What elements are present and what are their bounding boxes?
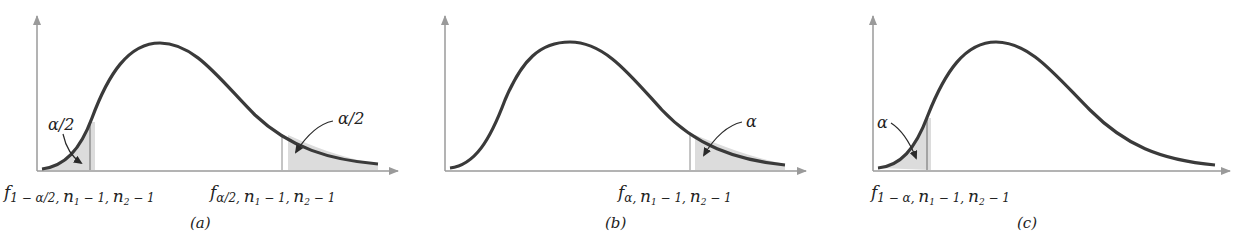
f-distribution-figure: α/2 α/2 f1 − α/2, n1 − 1, n2 − 1 fα/2, n… xyxy=(0,0,1235,242)
lower-critical-label: f1 − α, n1 − 1, n2 − 1 xyxy=(869,182,1010,207)
lower-critical-label: f1 − α/2, n1 − 1, n2 − 1 xyxy=(2,182,155,207)
f-density-curve xyxy=(450,42,785,168)
upper-critical-label: fα/2, n1 − 1, n2 − 1 xyxy=(208,182,335,207)
right-rejection-region xyxy=(288,135,378,170)
panel-a: α/2 α/2 f1 − α/2, n1 − 1, n2 − 1 fα/2, n… xyxy=(2,16,398,232)
left-tail-label: α/2 xyxy=(48,115,74,134)
panel-c: α f1 − α, n1 − 1, n2 − 1 (c) xyxy=(869,16,1230,232)
upper-critical-label: fα, n1 − 1, n2 − 1 xyxy=(616,182,732,207)
tail-label: α xyxy=(746,112,757,131)
panel-caption: (c) xyxy=(1017,214,1037,232)
right-tail-label: α/2 xyxy=(338,109,364,128)
panel-b: α fα, n1 − 1, n2 − 1 (b) xyxy=(445,16,806,232)
tail-label: α xyxy=(877,113,888,132)
panel-caption: (b) xyxy=(605,214,626,232)
panel-caption: (a) xyxy=(190,214,211,232)
